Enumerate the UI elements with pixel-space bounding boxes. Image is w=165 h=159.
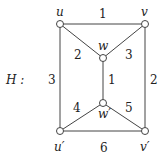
node-label-v2: v′ — [140, 140, 150, 154]
edge-weight-u2-w2: 4 — [73, 101, 81, 115]
node-label-w2: w′ — [98, 107, 111, 121]
edge-weight-u-v: 1 — [99, 7, 107, 21]
node-w2 — [100, 100, 107, 107]
node-label-u2: u′ — [54, 140, 65, 154]
node-u — [57, 21, 64, 28]
node-v — [142, 21, 149, 28]
node-u2 — [57, 128, 64, 135]
edge-weight-v-w: 3 — [125, 48, 133, 62]
graph-name-label: H : — [5, 73, 24, 87]
node-label-u: u — [56, 5, 64, 19]
edge-u2-w2 — [60, 103, 103, 131]
edge-weight-v-v2: 2 — [150, 73, 158, 87]
edge-v-w — [103, 24, 145, 58]
edge-weight-u-w: 2 — [74, 48, 82, 62]
edge-weight-u2-v2: 6 — [100, 141, 108, 155]
edge-weight-v2-w2: 5 — [125, 101, 133, 115]
graph-diagram: H : u v w w′ u′ v′ 1 2 3 1 2 3 4 5 6 — [0, 0, 165, 159]
node-label-v: v — [141, 5, 148, 19]
node-w — [100, 55, 107, 62]
node-label-w: w — [98, 39, 109, 53]
edge-weight-u-u2: 3 — [48, 73, 56, 87]
edge-weight-w-w2: 1 — [108, 73, 116, 87]
node-v2 — [142, 128, 149, 135]
